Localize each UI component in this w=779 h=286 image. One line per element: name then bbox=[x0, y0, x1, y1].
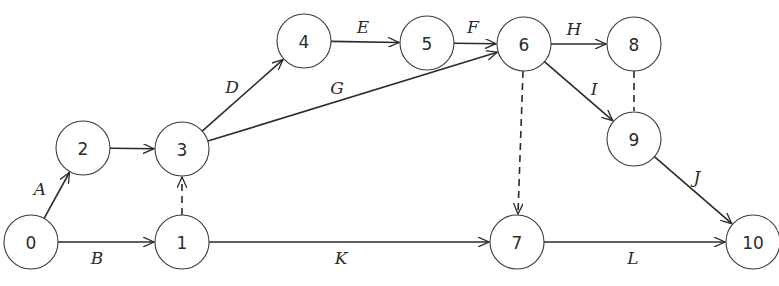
node-label: 3 bbox=[177, 140, 188, 160]
node-label: 8 bbox=[629, 35, 640, 55]
node-label: 1 bbox=[177, 233, 188, 253]
node-8: 8 bbox=[607, 17, 661, 71]
node-label: 0 bbox=[26, 233, 37, 253]
edge-6-9 bbox=[544, 62, 612, 121]
node-4: 4 bbox=[277, 14, 331, 68]
node-10: 10 bbox=[726, 215, 779, 269]
network-diagram: ABDEFGHIJKL 012345678910 bbox=[0, 0, 779, 286]
node-6: 6 bbox=[497, 17, 551, 71]
node-1: 1 bbox=[155, 215, 209, 269]
edge-4-5 bbox=[331, 41, 399, 42]
edge-3-4 bbox=[202, 60, 283, 132]
node-label: 4 bbox=[299, 32, 310, 52]
node-0: 0 bbox=[4, 215, 58, 269]
edge-0-2 bbox=[44, 173, 69, 219]
node-label: 5 bbox=[422, 34, 433, 54]
edge-label-f: F bbox=[466, 17, 480, 37]
edge-label-d: D bbox=[224, 77, 239, 97]
edge-label-i: I bbox=[590, 79, 598, 99]
edge-label-a: A bbox=[32, 179, 46, 199]
edge-3-6 bbox=[208, 52, 497, 141]
node-7: 7 bbox=[490, 215, 544, 269]
node-label: 2 bbox=[78, 139, 89, 159]
node-label: 7 bbox=[512, 233, 523, 253]
node-9: 9 bbox=[607, 112, 661, 166]
nodes-layer: 012345678910 bbox=[4, 14, 779, 269]
edge-label-g: G bbox=[330, 78, 344, 98]
edge-label-b: B bbox=[90, 248, 104, 268]
node-label: 6 bbox=[519, 35, 530, 55]
edge-label-j: J bbox=[691, 167, 702, 187]
edge-label-k: K bbox=[334, 248, 349, 268]
edge-label-l: L bbox=[626, 248, 638, 268]
edge-6-7-dummy bbox=[518, 71, 523, 214]
edge-labels-layer: ABDEFGHIJKL bbox=[32, 17, 702, 268]
node-3: 3 bbox=[155, 122, 209, 176]
node-label: 10 bbox=[742, 233, 764, 253]
node-5: 5 bbox=[400, 16, 454, 70]
edge-label-h: H bbox=[566, 19, 583, 39]
node-label: 9 bbox=[629, 130, 640, 150]
node-2: 2 bbox=[56, 121, 110, 175]
edge-label-e: E bbox=[356, 17, 370, 37]
